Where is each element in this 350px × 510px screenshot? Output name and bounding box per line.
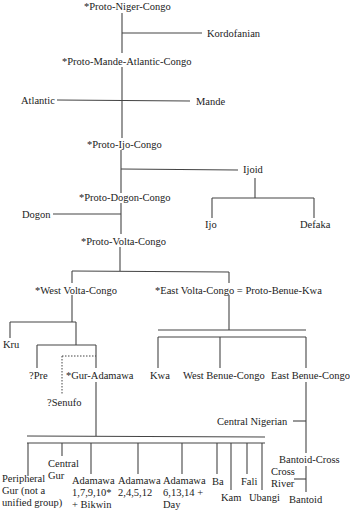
node-kru: Kru xyxy=(3,339,19,351)
node-proto-dogon-congo: *Proto-Dogon-Congo xyxy=(79,192,171,204)
node-defaka: Defaka xyxy=(300,219,330,231)
node-gur-adamawa: *Gur-Adamawa xyxy=(66,370,133,382)
node-proto-volta-congo: *Proto-Volta-Congo xyxy=(81,236,166,248)
node-dogon: Dogon xyxy=(22,209,51,221)
node-ijoid: Ijoid xyxy=(243,164,263,176)
node-proto-mande-atlantic-congo: *Proto-Mande-Atlantic-Congo xyxy=(62,56,191,68)
node-cross-river: Cross River xyxy=(271,466,295,490)
node-proto-niger-congo: *Proto-Niger-Congo xyxy=(84,1,171,13)
node-west-benue-congo: West Benue-Congo xyxy=(183,370,265,382)
node-proto-ijo-congo: *Proto-Ijo-Congo xyxy=(87,139,162,151)
node-kwa: Kwa xyxy=(150,370,170,382)
node-bantoid-cross: Bantoid-Cross xyxy=(279,454,340,466)
node-ubangi: Ubangi xyxy=(249,492,280,504)
node-adamawa-2-4-5-12: Adamawa 2,4,5,12 xyxy=(118,475,161,499)
node-fali: Fali xyxy=(241,476,257,488)
node-east-benue-congo: East Benue-Congo xyxy=(271,370,350,382)
node-kordofanian: Kordofanian xyxy=(207,28,260,40)
node-adamawa-1-7-9-10: Adamawa 1,7,9,10* + Bikwin xyxy=(72,475,115,510)
node-mande: Mande xyxy=(196,96,225,108)
node-west-volta-congo: *West Volta-Congo xyxy=(35,285,117,297)
node-central-nigerian: Central Nigerian xyxy=(217,416,287,428)
node-senufo: ?Senufo xyxy=(47,397,81,409)
node-kam: Kam xyxy=(221,492,241,504)
node-pre: ?Pre xyxy=(29,370,48,382)
node-atlantic: Atlantic xyxy=(21,95,55,107)
node-ba: Ba xyxy=(212,476,224,488)
node-ijo: Ijo xyxy=(205,219,217,231)
node-bantoid: Bantoid xyxy=(289,494,322,506)
node-adamawa-6-13-14-day: Adamawa 6,13,14 + Day xyxy=(163,475,206,510)
node-east-volta-congo: *East Volta-Congo = Proto-Benue-Kwa xyxy=(155,285,322,297)
node-peripheral-gur: Peripheral Gur (not a unified group) xyxy=(2,473,62,509)
